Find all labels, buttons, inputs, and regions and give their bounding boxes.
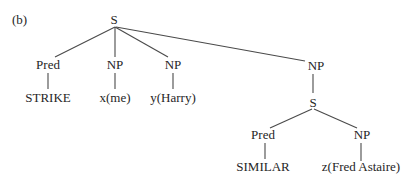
tree-edge: [55, 27, 115, 57]
tree-node-np3: NP: [308, 58, 325, 73]
tree-edge: [270, 109, 312, 128]
tree-node-xme: x(me): [99, 90, 130, 105]
tree-node-strike: STRIKE: [25, 90, 71, 105]
tree-node-zfred: z(Fred Astaire): [322, 159, 400, 174]
tree-node-yharry: y(Harry): [150, 90, 195, 105]
syntax-tree-diagram: (b) SPredNPNPNPSTRIKEx(me)y(Harry)SPredN…: [0, 0, 419, 184]
tree-node-np1: NP: [107, 57, 124, 72]
tree-edges: [48, 27, 361, 161]
tree-node-pred2: Pred: [251, 127, 275, 142]
tree-node-np2: NP: [165, 57, 182, 72]
tree-node-s0: S: [110, 12, 117, 27]
tree-nodes: SPredNPNPNPSTRIKEx(me)y(Harry)SPredNPSIM…: [25, 12, 400, 174]
figure-label: (b): [12, 12, 27, 27]
tree-edge: [314, 109, 357, 128]
tree-node-similar: SIMILAR: [236, 159, 290, 174]
tree-node-pred1: Pred: [36, 57, 60, 72]
tree-node-np4: NP: [354, 127, 371, 142]
tree-node-s1: S: [309, 95, 316, 110]
